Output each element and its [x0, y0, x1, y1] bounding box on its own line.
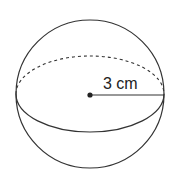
sphere-diagram: 3 cm [0, 0, 172, 185]
center-point [87, 92, 92, 97]
equator-front [16, 94, 164, 132]
radius-label: 3 cm [103, 75, 138, 92]
hidden-equator-back [16, 56, 164, 94]
